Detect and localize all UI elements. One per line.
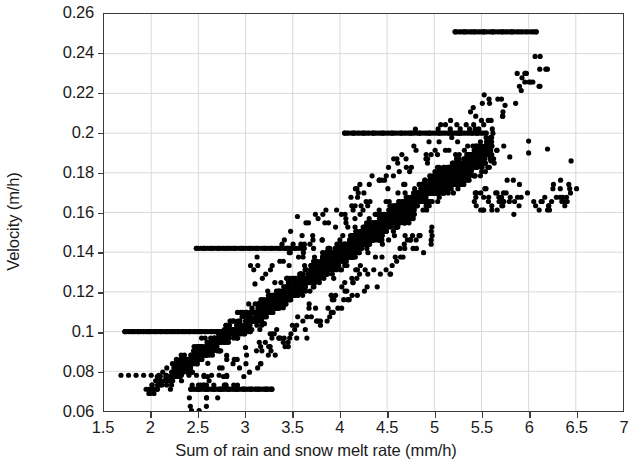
scatter-point (226, 387, 231, 392)
scatter-point (351, 131, 356, 136)
scatter-point (126, 373, 131, 378)
scatter-point (358, 212, 363, 217)
scatter-point (397, 169, 402, 174)
scatter-point (289, 276, 294, 281)
scatter-point (537, 67, 542, 72)
scatter-point (325, 246, 330, 251)
scatter-point (282, 237, 287, 242)
scatter-point (403, 212, 408, 217)
scatter-point (495, 207, 500, 212)
scatter-point (224, 373, 229, 378)
scatter-point (456, 169, 461, 174)
scatter-point (322, 220, 327, 225)
scatter-point (502, 103, 507, 108)
scatter-point (549, 199, 554, 204)
scatter-point (339, 284, 344, 289)
scatter-point (300, 318, 305, 323)
scatter-point (181, 329, 186, 334)
x-tick-mark (198, 412, 199, 418)
scatter-point (218, 387, 223, 392)
scatter-point (188, 387, 193, 392)
y-axis-title: Velocity (m/h) (4, 137, 23, 307)
scatter-point (270, 331, 275, 336)
scatter-point (209, 348, 214, 353)
scatter-point (255, 263, 260, 268)
scatter-point (170, 378, 175, 383)
scatter-point (217, 246, 222, 251)
scatter-point (349, 203, 354, 208)
scatter-point (353, 186, 358, 191)
scatter-point (274, 289, 279, 294)
scatter-point (455, 131, 460, 136)
scatter-point (228, 318, 233, 323)
scatter-point (501, 143, 506, 148)
scatter-point (488, 158, 493, 163)
scatter-point (218, 348, 223, 353)
scatter-point (304, 335, 309, 340)
scatter-point (517, 182, 522, 187)
scatter-point (473, 156, 478, 161)
scatter-point (295, 276, 300, 281)
scatter-point (220, 329, 225, 334)
scatter-point (558, 195, 563, 200)
scatter-point (164, 329, 169, 334)
scatter-point (122, 329, 127, 334)
scatter-point (412, 186, 417, 191)
scatter-point (430, 233, 435, 238)
scatter-point (386, 237, 391, 242)
scatter-point (519, 195, 524, 200)
scatter-point (220, 365, 225, 370)
scatter-point (380, 131, 385, 136)
scatter-point (436, 139, 441, 144)
scatter-point (403, 156, 408, 161)
scatter-point (337, 258, 342, 263)
scatter-point (133, 373, 138, 378)
scatter-point (373, 254, 378, 259)
scatter-point (525, 190, 530, 195)
scatter-point (414, 237, 419, 242)
scatter-point (566, 182, 571, 187)
scatter-point (526, 79, 531, 84)
scatter-point (209, 329, 214, 334)
scatter-point (339, 267, 344, 272)
scatter-point (243, 361, 248, 366)
scatter-point (364, 220, 369, 225)
scatter-point (164, 365, 169, 370)
scatter-point (508, 195, 513, 200)
scatter-point (232, 329, 237, 334)
scatter-point (286, 344, 291, 349)
scatter-point (424, 152, 429, 157)
scatter-point (130, 329, 135, 334)
scatter-point (351, 280, 356, 285)
scatter-point (397, 246, 402, 251)
scatter-point (262, 321, 267, 326)
scatter-point (171, 373, 176, 378)
scatter-point (296, 254, 301, 259)
scatter-point (258, 361, 263, 366)
scatter-point (385, 186, 390, 191)
y-tick-label: 0.12 (63, 282, 94, 301)
scatter-point (251, 267, 256, 272)
scatter-point (471, 105, 476, 110)
scatter-point (316, 216, 321, 221)
scatter-point (453, 152, 458, 157)
scatter-point (429, 178, 434, 183)
scatter-point (148, 391, 153, 396)
scatter-point (235, 357, 240, 362)
scatter-point (474, 143, 479, 148)
scatter-point (513, 101, 518, 106)
scatter-point (345, 297, 350, 302)
scatter-point (314, 276, 319, 281)
scatter-point (568, 190, 573, 195)
scatter-point (545, 146, 550, 151)
scatter-point (519, 88, 524, 93)
scatter-point (311, 246, 316, 251)
scatter-point (462, 29, 467, 34)
scatter-point (537, 207, 542, 212)
scatter-point (342, 289, 347, 294)
scatter-point (490, 131, 495, 136)
scatter-point (235, 310, 240, 315)
scatter-point (511, 178, 516, 183)
scatter-point (272, 280, 277, 285)
scatter-point (324, 254, 329, 259)
